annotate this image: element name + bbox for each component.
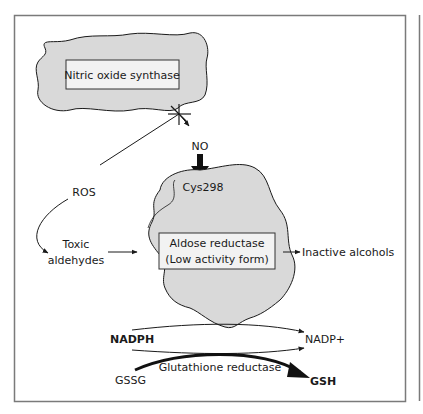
ar-label-2: (Low activity form) <box>165 253 268 266</box>
nos-label: Nitric oxide synthase <box>64 69 180 82</box>
toxic-label-1: Toxic <box>62 238 90 251</box>
nadp-label: NADP+ <box>305 333 345 346</box>
pathway-diagram: Nitric oxide synthase NO ROS Cys298 Toxi… <box>0 0 423 414</box>
glutathione-reductase-label: Glutathione reductase <box>159 361 282 374</box>
ros-to-nos-line <box>100 114 179 165</box>
toxic-label-2: aldehydes <box>48 254 105 267</box>
nadph-lower-arrow <box>132 348 304 354</box>
gsh-arrowhead-icon <box>287 362 310 378</box>
inactive-alcohols-label: Inactive alcohols <box>302 246 394 259</box>
no-label: NO <box>192 140 209 153</box>
gssg-label: GSSG <box>115 374 146 387</box>
gsh-label: GSH <box>310 375 336 388</box>
nos-output-arrow <box>180 115 189 126</box>
cys298-label: Cys298 <box>183 181 224 194</box>
nadph-upper-arrow <box>132 324 304 332</box>
inhibition-cross-icon <box>168 104 191 125</box>
ros-label: ROS <box>72 186 95 199</box>
ar-label-1: Aldose reductase <box>170 237 265 250</box>
nadph-label: NADPH <box>110 333 154 346</box>
